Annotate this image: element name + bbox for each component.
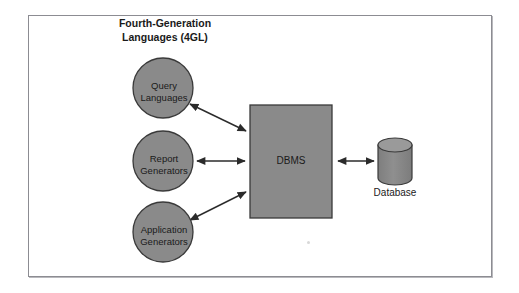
scan-artifact-speck [307,241,310,244]
diagram-title: Fourth-Generation Languages (4GL) [85,17,245,44]
diagram-canvas: Fourth-Generation Languages (4GL) Query … [0,0,519,293]
node-dbms [250,105,332,218]
diagram-shapes-layer [0,0,519,293]
diagram-title-line1: Fourth-Generation [85,17,245,31]
node-query-languages [133,58,193,118]
node-report-generators [133,131,193,191]
node-application-generators [133,202,193,262]
connector-application-to-dbms [190,192,246,220]
node-database [378,138,412,185]
diagram-title-line2: Languages (4GL) [85,31,245,45]
connector-query-to-dbms [190,104,246,131]
